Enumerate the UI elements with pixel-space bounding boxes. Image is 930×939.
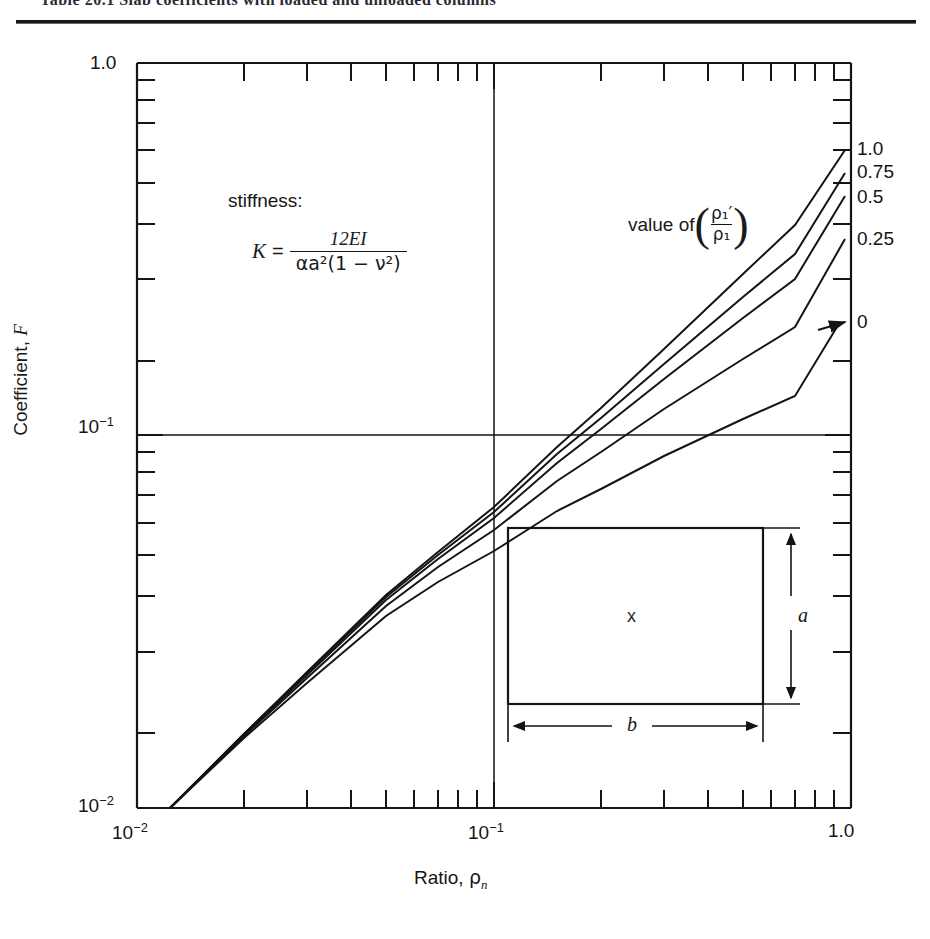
value-of-numerator: ρ₁′ [711, 205, 732, 223]
stiffness-denominator: αa²(1 − ν²) [290, 252, 407, 275]
value-of-paren-left: ( [695, 208, 710, 241]
x-tick-mid-exp: −1 [489, 820, 504, 835]
x-tick-right-text: 1.0 [828, 820, 854, 841]
inset-center-marker: x [627, 606, 636, 627]
inset-slab-diagram [508, 528, 800, 742]
x-tick-left-exp: −2 [133, 820, 148, 835]
curve-end-arrow-0 [818, 322, 845, 330]
x-axis-title-sub: n [481, 877, 487, 892]
x-axis-title-text: Ratio, [414, 867, 469, 888]
stiffness-fraction: 12EI αa²(1 − ν²) [290, 228, 407, 275]
y-tick-bot-exp: −2 [99, 793, 114, 808]
curve-label-025: 0.25 [857, 228, 894, 250]
y-tick-bot-base: 10 [78, 795, 99, 816]
y-axis-title: Coefficient, F [10, 280, 32, 480]
stiffness-formula: K = 12EI αa²(1 − ν²) [252, 228, 407, 275]
inset-dimension-a-label: a [798, 604, 808, 627]
value-of-annotation: value of ( ρ₁′ ρ₁ ) [628, 205, 749, 244]
curve-series-0 [170, 322, 840, 808]
inset-dimension-b-label: b [627, 713, 637, 736]
y-tick-label-mid: 10−1 [78, 414, 114, 438]
curve-label-075: 0.75 [857, 161, 894, 183]
value-of-paren-right: ) [733, 208, 748, 241]
y-tick-mid-exp: −1 [99, 414, 114, 429]
curve-label-1: 1.0 [857, 138, 883, 160]
y-tick-top-text: 1.0 [90, 52, 116, 73]
stiffness-numerator: 12EI [324, 228, 373, 251]
x-axis-title-symbol: ρ [469, 866, 481, 888]
stiffness-lhs: K [252, 239, 266, 264]
y-axis-title-symbol: F [10, 324, 31, 336]
x-tick-label-right: 1.0 [828, 820, 854, 842]
x-axis-title: Ratio, ρn [414, 866, 487, 893]
value-of-denominator: ρ₁ [713, 226, 731, 244]
chart-plot-area [0, 0, 930, 939]
x-axis-ticks [137, 782, 851, 808]
x-tick-label-left: 10−2 [112, 820, 148, 844]
chart-figure: Coefficient, F 1.0 10−1 10−2 10−2 10−1 1… [0, 0, 930, 939]
curve-end-arrows [818, 322, 845, 330]
x-tick-mid-base: 10 [468, 822, 489, 843]
y-tick-label-bottom: 10−2 [78, 793, 114, 817]
x-tick-left-base: 10 [112, 822, 133, 843]
gridlines [137, 63, 851, 808]
value-of-ratio: ρ₁′ ρ₁ [711, 205, 732, 244]
y-tick-mid-base: 10 [78, 416, 99, 437]
value-of-text: value of [628, 214, 695, 236]
y-axis-ticks [137, 63, 163, 808]
stiffness-label: stiffness: [228, 190, 303, 212]
x-axis-top-ticks [137, 63, 851, 89]
curve-label-0: 0 [857, 311, 868, 333]
x-tick-label-mid: 10−1 [468, 820, 504, 844]
y-axis-title-text: Coefficient, [10, 336, 31, 436]
stiffness-equals: = [272, 240, 284, 263]
curve-label-05: 0.5 [857, 186, 883, 208]
y-tick-label-top: 1.0 [90, 52, 116, 74]
